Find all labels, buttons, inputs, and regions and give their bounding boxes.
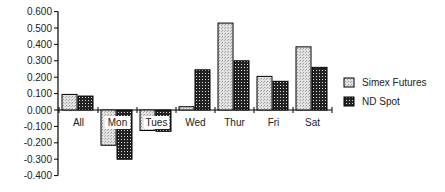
bar	[179, 107, 194, 110]
bar	[62, 94, 77, 110]
bar	[234, 61, 249, 110]
category-label: Fri	[268, 117, 280, 128]
bar	[195, 70, 210, 110]
category-label: Tues	[146, 117, 168, 128]
legend-swatch	[344, 97, 354, 106]
y-tick-label: -0.200	[24, 137, 53, 148]
bar	[312, 67, 327, 110]
bar	[218, 23, 233, 110]
bars	[62, 23, 327, 159]
y-tick-label: 0.200	[27, 72, 52, 83]
legend-label: Simex Futures	[362, 77, 426, 88]
y-tick-label: 0.500	[27, 23, 52, 34]
y-tick-label: -0.100	[24, 121, 53, 132]
y-tick-label: 0.000	[27, 105, 52, 116]
category-label: Thur	[224, 117, 245, 128]
legend: Simex FuturesND Spot	[344, 77, 426, 107]
category-label: Mon	[108, 117, 127, 128]
bar	[257, 76, 272, 110]
category-label: Wed	[185, 117, 205, 128]
category-label: Sat	[305, 117, 320, 128]
y-tick-label: -0.400	[24, 170, 53, 181]
legend-swatch	[344, 78, 354, 87]
legend-label: ND Spot	[362, 96, 400, 107]
y-tick-label: 0.600	[27, 6, 52, 17]
category-label: All	[73, 117, 84, 128]
bar	[296, 47, 311, 110]
chart-root: 0.6000.5000.4000.3000.2000.1000.000-0.10…	[0, 0, 445, 192]
bar-chart: 0.6000.5000.4000.3000.2000.1000.000-0.10…	[0, 0, 445, 192]
bar	[78, 96, 93, 110]
y-tick-label: 0.300	[27, 55, 52, 66]
category-labels: AllMonTuesWedThurFriSat	[73, 116, 320, 129]
y-tick-label: 0.100	[27, 88, 52, 99]
bar	[273, 81, 288, 110]
y-tick-label: -0.300	[24, 154, 53, 165]
y-tick-label: 0.400	[27, 39, 52, 50]
